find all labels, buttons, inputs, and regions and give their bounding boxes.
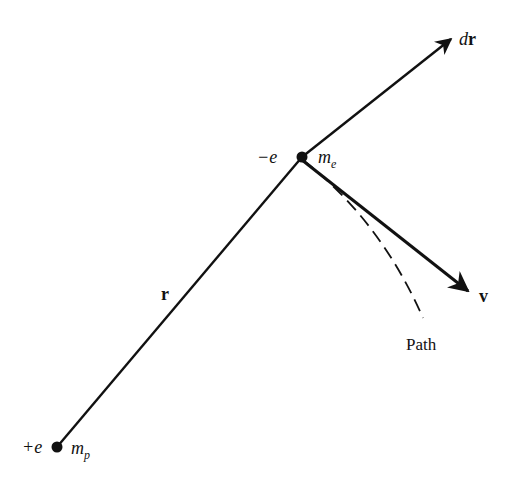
electron-mass-label: me [318, 147, 337, 171]
orbit-path-dashed [303, 160, 423, 318]
displacement-label: dr [459, 29, 476, 49]
electron-charge-label: −e [257, 147, 277, 167]
velocity-label: v [479, 286, 488, 306]
proton-mass-label: mp [71, 438, 90, 462]
proton-dot [52, 442, 63, 453]
position-vector-line [57, 157, 302, 447]
displacement-arrow [302, 39, 451, 157]
path-label: Path [406, 335, 437, 354]
electron-orbit-diagram: +e mp −e me r dr v Path [0, 0, 507, 477]
position-vector-label: r [161, 284, 169, 304]
electron-dot [297, 152, 308, 163]
proton-charge-label: +e [22, 437, 42, 457]
